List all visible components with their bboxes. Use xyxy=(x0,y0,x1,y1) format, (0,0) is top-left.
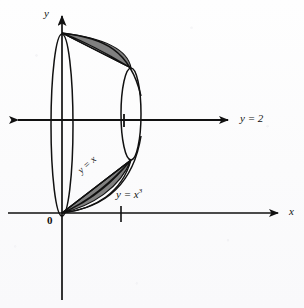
solid-inner-upper-outline xyxy=(62,33,131,68)
curve-label-y-equals-x-cubed: y = x3 xyxy=(116,188,142,200)
figure-canvas: y x 0 y = 2 y = x y = x3 xyxy=(0,0,304,308)
solid-lower-outline xyxy=(62,136,141,213)
origin-label: 0 xyxy=(47,215,53,226)
solid-of-revolution-plot xyxy=(0,0,304,308)
revolution-axis-label: y = 2 xyxy=(240,113,263,124)
y-axis-label: y xyxy=(44,8,49,19)
curve-label-exponent: 3 xyxy=(139,187,143,195)
x-axis-label: x xyxy=(289,206,294,217)
curve-label-base: y = x xyxy=(116,188,139,200)
